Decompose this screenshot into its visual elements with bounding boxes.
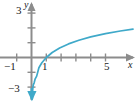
y-tick-label-neg-3: −3 bbox=[8, 83, 20, 94]
x-tick-label-1: 1 bbox=[42, 61, 48, 72]
x-tick-label-neg-1: −1 bbox=[4, 61, 16, 72]
x-axis-label: x bbox=[128, 60, 132, 70]
y-axis-label: y bbox=[24, 0, 28, 10]
y-tick-label-3: 3 bbox=[16, 5, 22, 16]
x-tick-label-5: 5 bbox=[104, 61, 110, 72]
logarithm-graph-figure: 3 −3 −1 1 5 y x bbox=[0, 0, 137, 102]
